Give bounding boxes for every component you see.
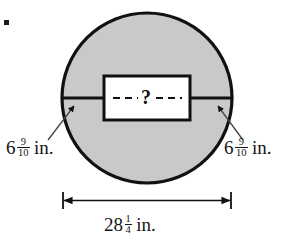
numerator: 9 xyxy=(238,137,245,148)
diameter-label: 28 1 4 in. xyxy=(104,213,156,236)
unit-label: in. xyxy=(252,138,272,157)
fraction: 9 10 xyxy=(235,137,248,160)
mixed-number-left: 6 9 10 in. xyxy=(6,136,54,159)
numerator: 1 xyxy=(125,214,132,225)
unit-label: in. xyxy=(136,215,156,234)
geometry-figure: ? 6 9 10 in. 6 9 10 in. 28 1 4 xyxy=(0,0,285,243)
radius-label-left: 6 9 10 in. xyxy=(6,136,54,159)
unit-label: in. xyxy=(34,138,54,157)
fraction: 1 4 xyxy=(125,214,132,237)
whole-part: 6 xyxy=(6,138,16,157)
unknown-question-mark: ? xyxy=(141,87,151,107)
denominator: 10 xyxy=(235,147,248,159)
whole-part: 28 xyxy=(104,215,123,234)
denominator: 4 xyxy=(125,224,132,236)
whole-part: 6 xyxy=(224,138,234,157)
denominator: 10 xyxy=(17,147,30,159)
mixed-number-right: 6 9 10 in. xyxy=(224,136,272,159)
mixed-number-diameter: 28 1 4 in. xyxy=(104,213,156,236)
fraction: 9 10 xyxy=(17,137,30,160)
figure-canvas xyxy=(0,0,285,243)
radius-label-right: 6 9 10 in. xyxy=(224,136,272,159)
numerator: 9 xyxy=(20,137,27,148)
